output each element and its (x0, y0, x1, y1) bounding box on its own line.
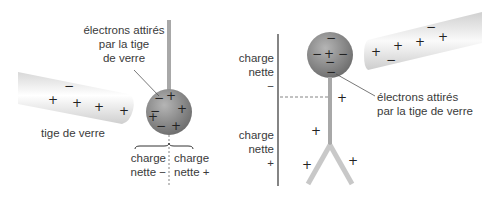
svg-text:+: + (311, 124, 321, 138)
label-line: nette + (174, 165, 210, 179)
label-line: électrons attirés (377, 90, 473, 104)
svg-text:+: + (438, 30, 448, 44)
svg-text:+: + (415, 35, 425, 49)
svg-text:+: + (371, 45, 381, 59)
svg-text:−: − (64, 79, 74, 93)
svg-text:−: − (154, 91, 164, 105)
left-rod-label: tige de verre (41, 126, 105, 140)
svg-text:+: + (393, 39, 403, 53)
svg-text:+: + (337, 91, 347, 105)
svg-text:+: + (119, 104, 129, 118)
right-electrons-label: électrons attirés par la tige de verre (377, 90, 473, 118)
svg-text:+: + (48, 93, 58, 107)
label-line: charge (128, 151, 166, 165)
right-electroscope: − − + − − − + + + + (278, 31, 375, 186)
label-line: charge (232, 128, 274, 142)
svg-text:+: + (302, 158, 312, 172)
left-electrons-label: électrons attirés par la tige de verre (82, 23, 166, 65)
svg-text:+: + (166, 89, 176, 103)
svg-text:−: − (386, 53, 396, 67)
label-line: électrons attirés (82, 23, 166, 37)
left-glass-rod: − + + + + (18, 72, 134, 124)
label-line: par la tige de verre (377, 104, 473, 118)
svg-text:−: − (156, 119, 166, 133)
svg-text:−: − (338, 47, 348, 61)
svg-text:+: + (171, 119, 181, 133)
svg-text:+: + (177, 102, 187, 116)
label-line: − (232, 79, 274, 93)
svg-text:−: − (426, 20, 436, 34)
svg-text:−: − (312, 47, 322, 61)
label-line: charge (174, 151, 210, 165)
left-charge-pos-label: charge nette + (174, 151, 210, 179)
label-line: nette (232, 65, 274, 79)
label-line: charge (232, 51, 274, 65)
label-line: nette − (128, 165, 166, 179)
left-charge-neg-label: charge nette − (128, 151, 166, 179)
svg-text:+: + (348, 154, 358, 168)
svg-text:−: − (326, 31, 336, 45)
label-line: + (232, 156, 274, 170)
label-line: par la tige (82, 37, 166, 51)
svg-text:−: − (326, 65, 336, 79)
right-charge-neg-label: charge nette − (232, 51, 274, 93)
right-glass-rod: + + + + − − (364, 12, 482, 70)
svg-text:+: + (94, 100, 104, 114)
label-line: de verre (82, 51, 166, 65)
label-line: nette (232, 142, 274, 156)
svg-text:+: + (72, 96, 82, 110)
right-charge-pos-label: charge nette + (232, 128, 274, 170)
